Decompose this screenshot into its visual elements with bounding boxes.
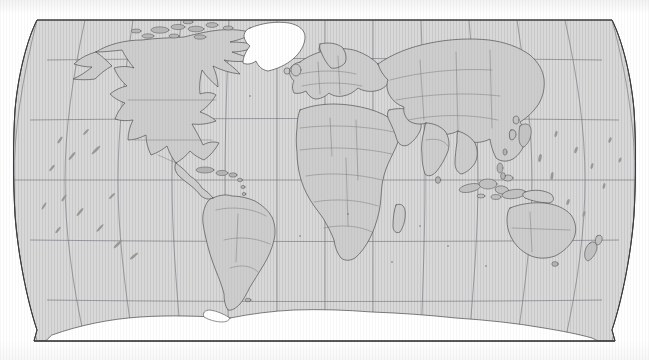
region-sri-lanka [435, 177, 440, 184]
world-map-canvas: World Map [0, 0, 649, 360]
world-map-graphic [0, 0, 649, 360]
region-taiwan [503, 149, 507, 155]
region-tasmania [552, 262, 558, 267]
region-falklands [245, 298, 251, 302]
